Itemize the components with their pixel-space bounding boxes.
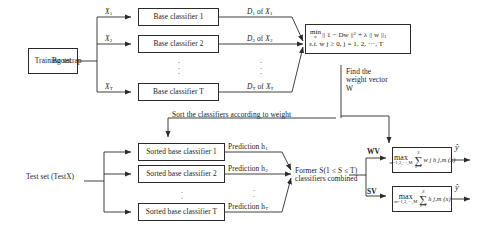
- classifier-output-d1: D1 of X1: [247, 8, 273, 17]
- sv-term: h j,m (x): [428, 196, 450, 203]
- sorted-classifier-ellipsis: ..: [177, 188, 187, 199]
- prediction-h2: Prediction h2: [228, 165, 268, 174]
- weighted-voting-formula: max m=1,2,···,M S ∑ j=1 w j h j,m (x): [389, 151, 456, 169]
- constraint-body: w j ≥ 0, j = 1, 2, ···, T: [320, 41, 384, 48]
- base-classifier-t-label: Base classifier T: [153, 88, 204, 96]
- simple-voting-box: max m=1,2,···,M S ∑ j=1 h j,m (x): [392, 186, 452, 212]
- objective-function-row: min w || 1 − Dw ||2 + λ || w ||1: [309, 30, 387, 40]
- base-classifier-2-label: Base classifier 2: [153, 40, 203, 48]
- base-classifier-2: Base classifier 2: [138, 35, 219, 53]
- simple-voting-formula: max m=1,2,···,M S ∑ j=1 h j,m (x): [393, 190, 450, 208]
- base-classifier-t: Base classifier T: [138, 83, 219, 101]
- objective-norm-term: || 1 − Dw ||2 + λ || w ||1: [322, 31, 386, 39]
- wv-term: w j h j,m (x): [423, 157, 455, 164]
- sample-label-x1: X1: [105, 8, 112, 17]
- weighted-voting-box: max m=1,2,···,M S ∑ j=1 w j h j,m (x): [392, 147, 452, 173]
- sorted-base-classifier-2-label: Sorted base classifier 2: [146, 170, 217, 178]
- sorted-base-classifier-1-label: Sorted base classifier 1: [146, 148, 217, 156]
- sv-max-operator: max m=1,2,···,M: [394, 194, 417, 205]
- prediction-ht: Prediction hT: [228, 203, 268, 212]
- base-classifier-1-label: Base classifier 1: [153, 13, 203, 21]
- sort-classifiers-label: Sort the classifiers according to weight: [172, 111, 291, 119]
- min-operator: min w: [310, 30, 321, 40]
- output-yhat-sv: ŷ: [455, 184, 459, 193]
- sorted-base-classifier-t: Sorted base classifier T: [138, 203, 225, 221]
- sorted-base-classifier-1: Sorted base classifier 1: [138, 143, 225, 161]
- sample-label-xt: XT: [105, 83, 113, 92]
- sv-sum-operator: S ∑ j=1: [419, 190, 427, 208]
- bootstrap-label: Bootstrap: [52, 57, 82, 65]
- prediction-h1: Prediction h1: [228, 143, 268, 152]
- combine-classifiers-label: Former S(1 ≤ S ≤ T) classifiers combined: [295, 167, 358, 184]
- constraint-prefix: s.t.: [309, 41, 318, 48]
- classifier-output-d2: D2 of X2: [247, 35, 273, 44]
- ensemble-pipeline-diagram: Training set Bootstrap X1 X2 XT Base cla…: [0, 0, 488, 239]
- find-weight-vector-label: Find the weight vector W: [346, 68, 392, 93]
- test-set-label: Test set (TestX): [26, 173, 74, 181]
- wv-max-operator: max m=1,2,···,M: [390, 155, 413, 166]
- base-classifier-1: Base classifier 1: [138, 8, 219, 26]
- sv-label: SV: [367, 188, 377, 196]
- optimization-objective-box: min w || 1 − Dw ||2 + λ || w ||1 s.t. w …: [305, 24, 411, 54]
- prediction-ellipsis: ..: [249, 186, 259, 197]
- output-yhat-wv: ŷ: [455, 144, 459, 153]
- base-classifier-ellipsis: ...: [174, 58, 184, 75]
- classifier-output-dt: DT of XT: [247, 83, 274, 92]
- classifier-output-ellipsis: ...: [256, 58, 266, 75]
- wv-sum-operator: S ∑ j=1: [415, 151, 423, 169]
- sorted-base-classifier-2: Sorted base classifier 2: [138, 165, 225, 183]
- sorted-base-classifier-t-label: Sorted base classifier T: [146, 208, 217, 216]
- sample-label-x2: X2: [105, 35, 112, 44]
- combine-line-2: classifiers combined: [295, 174, 358, 183]
- objective-constraint-row: s.t. w j ≥ 0, j = 1, 2, ···, T: [309, 41, 383, 48]
- wv-label: WV: [367, 148, 380, 156]
